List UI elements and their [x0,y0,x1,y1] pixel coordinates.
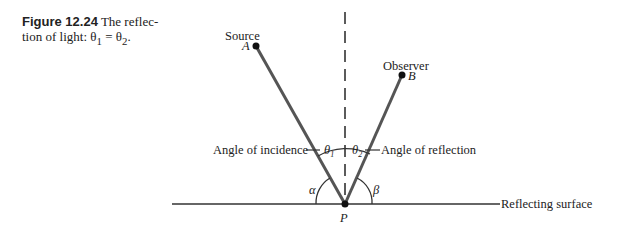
point-a [253,43,260,50]
incident-ray [256,46,345,204]
point-p [342,201,349,208]
point-a-label: A [241,39,250,53]
angle-of-incidence-label: Angle of incidence [213,143,309,157]
angle-of-reflection-label: Angle of reflection [381,143,477,157]
beta-arc [357,178,372,204]
reflection-diagram: Source A Observer B Angle of incidence A… [0,0,625,236]
beta-label: β [372,183,380,197]
theta1-label: θ1 [324,143,334,159]
point-b-label: B [408,69,416,83]
alpha-label: α [309,183,316,197]
alpha-arc [316,178,330,204]
point-p-label: P [339,211,348,225]
reflecting-surface-label: Reflecting surface [501,197,593,211]
theta2-label: θ2 [352,143,362,159]
observer-label: Observer [383,59,430,73]
